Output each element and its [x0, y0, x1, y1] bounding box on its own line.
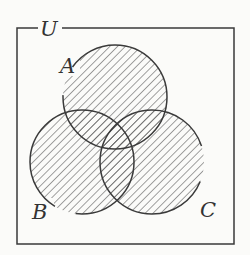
set-a-label: A [58, 54, 75, 78]
venn-diagram: U A B C [0, 0, 250, 255]
set-b-label: B [31, 200, 47, 224]
set-c-label: C [200, 198, 216, 222]
universe-label: U [40, 17, 59, 41]
shaded-union-region [30, 45, 204, 214]
